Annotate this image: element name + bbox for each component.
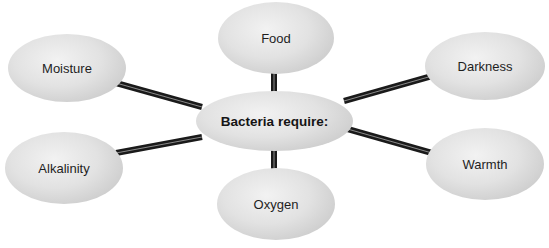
node-warmth: Warmth [426, 128, 544, 200]
node-oxygen: Oxygen [217, 168, 335, 240]
node-alkalinity: Alkalinity [5, 132, 123, 204]
node-label: Food [261, 31, 291, 46]
node-label: Moisture [42, 61, 92, 76]
node-label: Darkness [458, 59, 513, 74]
node-label: Warmth [462, 157, 507, 172]
node-center: Bacteria require: [196, 91, 353, 151]
node-label: Oxygen [254, 197, 299, 212]
center-label: Bacteria require: [221, 114, 328, 129]
node-label: Alkalinity [38, 161, 89, 176]
node-darkness: Darkness [425, 32, 545, 100]
node-food: Food [218, 2, 334, 74]
node-moisture: Moisture [8, 34, 126, 102]
bacteria-requirements-diagram: Food Moisture Darkness Bacteria require:… [0, 0, 549, 248]
